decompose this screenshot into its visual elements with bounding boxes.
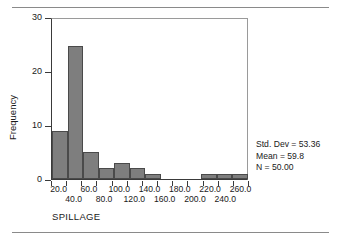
bar <box>68 46 84 179</box>
x-axis-tick-label: 100.0 <box>104 185 134 194</box>
y-axis-tick <box>45 18 51 19</box>
x-axis-tick-label: 160.0 <box>150 195 180 204</box>
bar <box>217 174 233 179</box>
y-axis-tick <box>45 126 51 127</box>
statistics-annotation: Std. Dev = 53.36 Mean = 59.8 N = 50.00 <box>256 139 320 174</box>
x-axis-tick-label: 20.0 <box>44 185 74 194</box>
x-axis-title: SPILLAGE <box>52 211 100 222</box>
x-axis-tick-label: 80.0 <box>89 195 119 204</box>
x-axis-tick-label: 240.0 <box>210 195 240 204</box>
page-rule-top <box>12 7 329 8</box>
histogram-figure: 0102030 Frequency 20.040.060.080.0100.01… <box>0 0 341 241</box>
n-label: N = 50.00 <box>256 162 320 174</box>
bar <box>114 163 130 179</box>
x-axis-tick-label: 260.0 <box>225 185 255 194</box>
bar <box>130 168 146 179</box>
x-axis-tick-label: 180.0 <box>165 185 195 194</box>
y-axis-tick-label: 0 <box>37 175 42 184</box>
bar-series <box>52 19 248 179</box>
y-axis-tick-label: 30 <box>32 13 42 22</box>
std-dev-label: Std. Dev = 53.36 <box>256 139 320 151</box>
page-rule-bottom <box>12 232 329 233</box>
x-axis-tick-label: 220.0 <box>195 185 225 194</box>
x-axis-tick-label: 60.0 <box>74 185 104 194</box>
x-axis-tick-label: 40.0 <box>59 195 89 204</box>
y-axis-tick <box>45 72 51 73</box>
bar <box>83 152 99 179</box>
y-axis-tick-label: 20 <box>32 67 42 76</box>
bar <box>232 174 248 179</box>
x-axis-tick-label: 120.0 <box>119 195 149 204</box>
bar <box>201 174 217 179</box>
y-axis-tick-label: 10 <box>32 121 42 130</box>
bar <box>145 174 161 179</box>
x-axis-tick-label: 140.0 <box>135 185 165 194</box>
bar <box>52 131 68 179</box>
y-axis-title: Frequency <box>7 75 18 161</box>
mean-label: Mean = 59.8 <box>256 151 320 163</box>
x-axis-tick-label: 200.0 <box>180 195 210 204</box>
bar <box>99 168 115 179</box>
